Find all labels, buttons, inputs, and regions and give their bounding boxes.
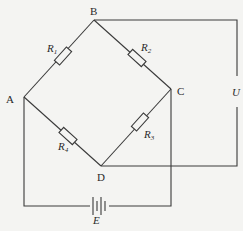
source-label-e: E (92, 214, 100, 226)
node-label-a: A (6, 93, 14, 105)
node-label-c: C (177, 85, 184, 97)
resistor-label-r3: R3 (143, 128, 155, 142)
node-label-d: D (97, 171, 105, 183)
wire-d-output (101, 107, 237, 166)
resistor-label-r1: R1 (46, 42, 57, 56)
resistor-label-r2: R2 (140, 41, 152, 55)
bridge-circuit-diagram: B A C D R1 R2 R3 R4 E U (0, 0, 243, 231)
battery-icon (93, 197, 105, 215)
output-label-u: U (232, 86, 241, 98)
node-label-b: B (90, 5, 97, 17)
resistor-label-r4: R4 (57, 140, 69, 154)
wire-b-output (94, 20, 237, 76)
wire-a-source (24, 97, 90, 206)
